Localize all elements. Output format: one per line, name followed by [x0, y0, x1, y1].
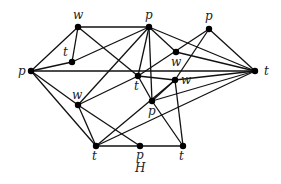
node-w_top: [75, 24, 81, 30]
node-label-w_top: w: [73, 8, 84, 22]
edge-t_center-p_center: [138, 76, 152, 101]
edge-p_left-t_small: [31, 62, 72, 71]
node-label-t_bottom: t: [92, 149, 97, 163]
edge-p_left-w_left: [31, 71, 78, 105]
node-label-t_right: t: [264, 64, 269, 78]
node-w_left: [75, 102, 81, 108]
node-label-p_top: p: [145, 8, 153, 22]
node-label-p_center: p: [148, 104, 156, 118]
graph-diagram: pwtppwttwpwtpt H: [0, 0, 281, 184]
edge-p_topright-t_right: [209, 29, 255, 71]
node-label-t_bottomright: t: [179, 149, 184, 163]
node-label-p_left: p: [18, 64, 26, 78]
node-label-w_center: w: [181, 73, 192, 87]
node-t_right: [252, 68, 258, 74]
node-t_small: [69, 59, 75, 65]
edge-p_top-p_center: [149, 27, 152, 101]
edge-w_top-t_center: [78, 27, 138, 76]
edge-p_left-t_bottom: [31, 71, 96, 146]
edge-p_top-t_center: [138, 27, 149, 76]
node-p_topright: [206, 26, 212, 32]
node-p_left: [28, 68, 34, 74]
edge-t_center-w_center: [138, 76, 175, 80]
edge-p_top-w_left: [78, 27, 149, 105]
node-label-w_mid: w: [171, 55, 182, 69]
node-label-w_left: w: [72, 88, 83, 102]
node-label-t_center: t: [134, 79, 139, 93]
node-w_center: [172, 77, 178, 83]
edge-p_top-w_mid: [149, 27, 176, 52]
node-p_top: [146, 24, 152, 30]
graph-caption: H: [134, 161, 146, 175]
node-label-p_topright: p: [205, 9, 213, 23]
edge-w_left-t_center: [78, 76, 138, 105]
node-label-t_small: t: [63, 45, 68, 59]
node-label-p_bottom: p: [136, 148, 144, 162]
